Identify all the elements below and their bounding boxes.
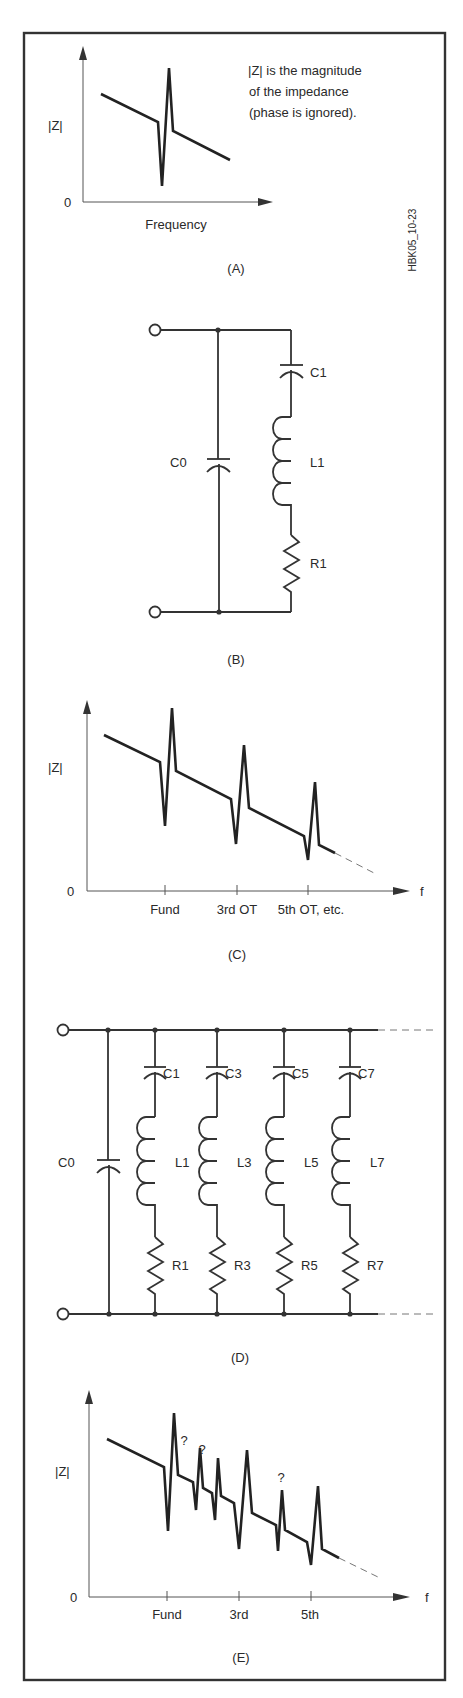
inductor-l1 (137, 1117, 155, 1237)
panel-b-c0-label: C0 (170, 455, 187, 470)
panel-c-y-arrow-icon (83, 700, 91, 714)
panel-b-capacitor-c1 (280, 365, 303, 417)
panel-e-unknown-mark-1: ? (180, 1433, 187, 1448)
label-l1: L1 (175, 1155, 189, 1170)
panel-c-caption: (C) (228, 947, 246, 962)
panel-b-capacitor-c0 (207, 330, 230, 612)
panel-e-x-label: f (425, 1590, 429, 1605)
panel-e-y-arrow-icon (85, 1390, 93, 1404)
resistor-r5 (277, 1237, 292, 1314)
panel-b-inductor-l1 (273, 417, 291, 535)
inductor-l7 (332, 1117, 350, 1237)
panel-b-l1-label: L1 (310, 455, 324, 470)
label-l5: L5 (304, 1155, 318, 1170)
label-r3: R3 (234, 1258, 251, 1273)
panel-c-tick-label-3rd: 3rd OT (217, 902, 258, 917)
label-c1: C1 (163, 1066, 180, 1081)
inductor-l3 (199, 1117, 217, 1237)
panel-b-caption: (B) (227, 652, 244, 667)
panel-c-impedance-curve (104, 708, 335, 860)
panel-e-tick-label-3rd: 3rd (230, 1607, 249, 1622)
panel-b-bottom-terminal (150, 607, 161, 618)
panel-c-overtone-plot: |Z| 0 f Fund 3rd OT 5th OT, etc. (C) (48, 700, 424, 962)
panel-d-top-terminal (58, 1025, 69, 1036)
resistor-r1 (148, 1237, 163, 1314)
panel-a-impedance-curve (101, 68, 230, 186)
panel-d-caption: (D) (231, 1350, 249, 1365)
resistor-r7 (343, 1237, 358, 1314)
panel-c-continuation-dash (335, 853, 376, 874)
resistor-r3 (210, 1237, 225, 1314)
panel-b-resistor-r1 (284, 535, 299, 612)
panel-a-impedance-plot: |Z| 0 Frequency |Z| is the magnitude of … (48, 46, 418, 276)
panel-e-unknown-mark-3: ? (277, 1470, 284, 1485)
label-c7: C7 (358, 1066, 375, 1081)
panel-e-continuation-dash (339, 1558, 380, 1578)
label-l7: L7 (370, 1155, 384, 1170)
panel-d-branches: C1L1R1C3L3R3C5L5R5C7L7R7 (137, 1027, 384, 1316)
panel-e-tick-label-5th: 5th (301, 1607, 319, 1622)
panel-e-origin-label: 0 (70, 1590, 77, 1605)
panel-b-equivalent-circuit: C0 C1 L1 R1 (B) (150, 325, 327, 668)
panel-c-origin-label: 0 (67, 884, 74, 899)
panel-e-caption: (E) (232, 1650, 249, 1665)
panel-a-y-label: |Z| (48, 118, 63, 133)
panel-a-x-arrow-icon (258, 198, 273, 206)
panel-d-branch-5: C5L5R5 (266, 1027, 318, 1316)
panel-b-top-terminal (150, 325, 161, 336)
panel-e-unknown-mark-2: ? (198, 1442, 205, 1457)
label-r7: R7 (367, 1258, 384, 1273)
panel-b-r1-label: R1 (310, 556, 327, 571)
label-r5: R5 (301, 1258, 318, 1273)
inductor-l5 (266, 1117, 284, 1237)
label-c5: C5 (292, 1066, 309, 1081)
panel-e-y-label: |Z| (55, 1464, 70, 1479)
panel-c-x-label: f (420, 884, 424, 899)
panel-a-y-arrow-icon (79, 46, 87, 60)
panel-d-branch-7: C7L7R7 (332, 1027, 384, 1316)
label-c3: C3 (225, 1066, 242, 1081)
panel-e-impedance-curve (107, 1413, 339, 1565)
panel-e-tick-label-fund: Fund (152, 1607, 182, 1622)
figure-id-label: HBK05_10-23 (407, 208, 418, 271)
panel-d-overtone-circuit: C0 C1L1R1C3L3R3C5L5R5C7L7R7 (D) (58, 1025, 435, 1366)
panel-a-note-line-2: of the impedance (249, 84, 349, 99)
panel-a-note-line-3: (phase is ignored). (249, 105, 357, 120)
panel-e-spurious-plot: ? ? ? |Z| 0 f Fund 3rd 5th (E) (55, 1390, 429, 1665)
panel-d-branch-3: C3L3R3 (199, 1027, 251, 1316)
panel-a-caption: (A) (227, 261, 244, 276)
panel-c-x-arrow-icon (393, 887, 410, 895)
panel-a-note-line-1: |Z| is the magnitude (248, 63, 362, 78)
panel-a-origin-label: 0 (64, 195, 71, 210)
label-r1: R1 (172, 1258, 189, 1273)
panel-b-c1-label: C1 (310, 365, 327, 380)
label-l3: L3 (237, 1155, 251, 1170)
panel-a-x-label: Frequency (145, 217, 207, 232)
panel-c-tick-label-5th: 5th OT, etc. (278, 902, 344, 917)
panel-d-capacitor-c0 (97, 1027, 120, 1316)
panel-c-y-label: |Z| (48, 760, 63, 775)
crystal-impedance-figure: |Z| 0 Frequency |Z| is the magnitude of … (0, 0, 463, 1698)
panel-d-bottom-terminal (58, 1309, 69, 1320)
panel-d-branch-1: C1L1R1 (137, 1027, 189, 1316)
panel-e-x-arrow-icon (393, 1593, 410, 1601)
panel-d-c0-label: C0 (58, 1155, 75, 1170)
panel-c-tick-label-fund: Fund (150, 902, 180, 917)
